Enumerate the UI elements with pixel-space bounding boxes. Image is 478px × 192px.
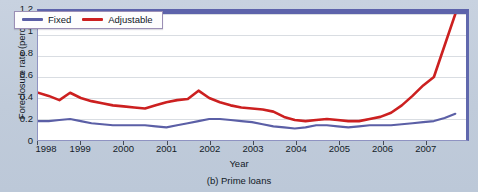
y-tick-label: 0.2	[0, 113, 33, 124]
series-line-fixed	[38, 114, 455, 129]
x-tick-label: 1999	[60, 143, 100, 154]
legend: Fixed Adjustable	[14, 11, 163, 29]
legend-swatch-adjustable	[82, 18, 103, 21]
series-container	[38, 14, 466, 140]
plot-area	[37, 9, 469, 141]
legend-label-adjustable: Adjustable	[108, 15, 152, 25]
series-line-adjustable	[38, 14, 455, 121]
x-tick-label: 2001	[147, 143, 187, 154]
x-tick-label: 2007	[406, 143, 446, 154]
legend-label-fixed: Fixed	[48, 15, 71, 25]
x-tick-label: 2004	[276, 143, 316, 154]
figure-panel: Foreclosure rate (percent) 00.20.40.60.8…	[0, 0, 478, 192]
x-tick-label: 2000	[103, 143, 143, 154]
legend-item-fixed: Fixed	[22, 15, 71, 25]
y-tick-label: 0.6	[0, 69, 33, 80]
x-tick-label: 2006	[363, 143, 403, 154]
x-tick-label: 2005	[319, 143, 359, 154]
x-tick-label: 2002	[190, 143, 230, 154]
x-tick-label: 2003	[233, 143, 273, 154]
x-axis-title: Year	[0, 158, 478, 169]
y-tick-label: 0.8	[0, 47, 33, 58]
legend-swatch-fixed	[22, 18, 43, 21]
y-tick-label: 0.4	[0, 91, 33, 102]
plot-inner	[38, 14, 466, 140]
figure-caption: (b) Prime loans	[0, 175, 478, 186]
legend-item-adjustable: Adjustable	[82, 15, 152, 25]
